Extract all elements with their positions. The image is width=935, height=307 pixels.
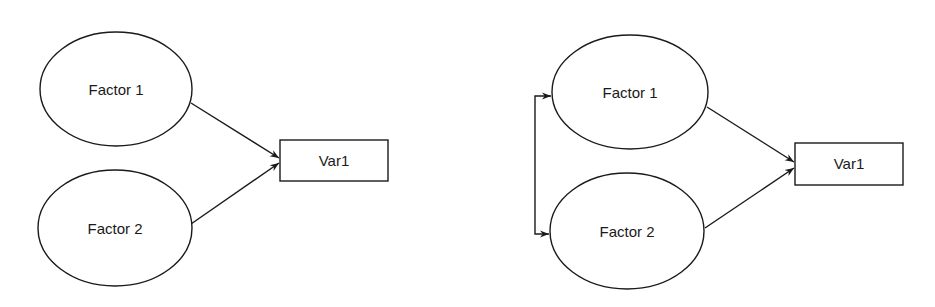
node-factor-2: Factor 2 (550, 173, 704, 289)
node-var1: Var1 (280, 140, 388, 181)
node-factor-2: Factor 2 (38, 170, 192, 286)
node-label: Factor 2 (599, 223, 654, 240)
node-label: Factor 2 (87, 220, 142, 237)
node-label: Factor 1 (602, 84, 657, 101)
diagram-correlated: Factor 1 Factor 2 Var1 (535, 35, 903, 289)
edge-factor2-to-var1 (191, 163, 279, 224)
edge-factor1-to-var1 (191, 103, 279, 158)
edge-factor2-to-var1 (705, 168, 794, 228)
node-factor-1: Factor 1 (552, 35, 708, 149)
node-var1: Var1 (795, 143, 903, 185)
node-label: Var1 (834, 155, 865, 172)
node-label: Factor 1 (88, 81, 143, 98)
node-factor-1: Factor 1 (40, 32, 192, 146)
path-diagrams: Factor 1 Factor 2 Var1 Factor 1 Factor 2… (0, 0, 935, 307)
node-label: Var1 (319, 152, 350, 169)
diagram-uncorrelated: Factor 1 Factor 2 Var1 (38, 32, 388, 286)
edge-factor1-to-var1 (707, 107, 794, 162)
edge-covariance-factor1-factor2 (535, 96, 551, 234)
